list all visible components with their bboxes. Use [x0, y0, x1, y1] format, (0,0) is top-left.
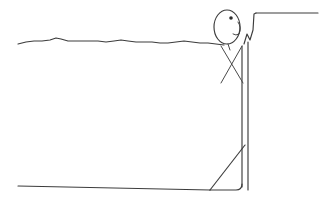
- comic-panel: [0, 0, 320, 207]
- head-ellipse: [214, 10, 240, 44]
- water-surface-line: [18, 38, 224, 45]
- pool-slope-line: [210, 145, 245, 190]
- pool-wall-step: [244, 13, 256, 44]
- comic-drawing: [0, 0, 320, 207]
- pool-bottom-corner: [210, 184, 242, 190]
- eye-dot: [229, 16, 233, 20]
- neck-line: [228, 44, 230, 50]
- pool-floor-line: [18, 186, 210, 190]
